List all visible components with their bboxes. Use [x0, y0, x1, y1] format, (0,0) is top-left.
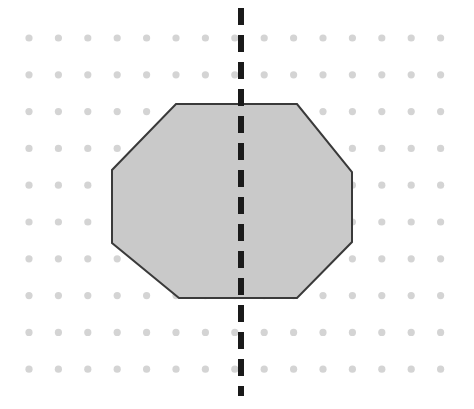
grid-dot — [349, 108, 356, 115]
grid-dot — [437, 255, 444, 262]
grid-dot — [261, 34, 268, 41]
grid-dot — [437, 71, 444, 78]
grid-dot — [437, 329, 444, 336]
grid-dot — [437, 366, 444, 373]
grid-dot — [114, 255, 121, 262]
grid-dot — [84, 255, 91, 262]
grid-dot — [290, 366, 297, 373]
grid-dot — [349, 366, 356, 373]
grid-dot — [25, 329, 32, 336]
grid-dot — [437, 292, 444, 299]
grid-dot — [378, 366, 385, 373]
grid-dot — [114, 366, 121, 373]
grid-dot — [349, 71, 356, 78]
grid-dot — [84, 218, 91, 225]
grid-dot — [437, 218, 444, 225]
grid-dot — [408, 292, 415, 299]
grid-dot — [231, 71, 238, 78]
grid-dot — [172, 71, 179, 78]
grid-dot — [408, 71, 415, 78]
grid-dot — [261, 366, 268, 373]
grid-dot — [25, 255, 32, 262]
grid-dot — [55, 71, 62, 78]
grid-dot — [319, 108, 326, 115]
grid-dot — [378, 145, 385, 152]
grid-dot — [55, 182, 62, 189]
grid-dot — [143, 108, 150, 115]
grid-dot — [349, 255, 356, 262]
grid-dot — [55, 292, 62, 299]
grid-dot — [202, 34, 209, 41]
grid-dot — [290, 329, 297, 336]
grid-dot — [378, 292, 385, 299]
grid-dot — [143, 329, 150, 336]
figure-canvas — [0, 0, 474, 409]
grid-dot — [319, 292, 326, 299]
grid-dot — [84, 34, 91, 41]
grid-dot — [378, 329, 385, 336]
grid-dot — [378, 218, 385, 225]
grid-dot — [84, 145, 91, 152]
grid-dot — [143, 292, 150, 299]
grid-dot — [84, 366, 91, 373]
grid-dot — [25, 218, 32, 225]
grid-dot — [84, 108, 91, 115]
grid-dot — [114, 34, 121, 41]
grid-dot — [84, 329, 91, 336]
grid-dot — [408, 255, 415, 262]
grid-dot — [408, 218, 415, 225]
grid-dot — [408, 145, 415, 152]
grid-dot — [437, 34, 444, 41]
grid-dot — [55, 329, 62, 336]
grid-dot — [84, 71, 91, 78]
grid-dot — [172, 366, 179, 373]
grid-dot — [202, 71, 209, 78]
grid-dot — [143, 71, 150, 78]
grid-dot — [25, 108, 32, 115]
grid-dot — [408, 366, 415, 373]
grid-dot — [25, 182, 32, 189]
grid-dot — [437, 108, 444, 115]
grid-dot — [290, 71, 297, 78]
grid-dot — [172, 329, 179, 336]
grid-dot — [114, 292, 121, 299]
grid-dot — [349, 145, 356, 152]
grid-dot — [114, 71, 121, 78]
grid-dot — [25, 71, 32, 78]
grid-dot — [202, 366, 209, 373]
grid-dot — [408, 108, 415, 115]
grid-dot — [408, 329, 415, 336]
grid-dot — [349, 329, 356, 336]
grid-dot — [319, 34, 326, 41]
grid-dot — [437, 182, 444, 189]
grid-dot — [25, 292, 32, 299]
grid-dot — [202, 329, 209, 336]
grid-dot — [55, 218, 62, 225]
grid-dot — [25, 145, 32, 152]
grid-dot — [349, 292, 356, 299]
grid-dot — [55, 108, 62, 115]
grid-dot — [143, 34, 150, 41]
grid-dot — [378, 71, 385, 78]
grid-dot — [231, 329, 238, 336]
grid-dot — [319, 71, 326, 78]
grid-dot — [25, 366, 32, 373]
grid-dot — [378, 182, 385, 189]
grid-dot — [349, 34, 356, 41]
grid-dot — [143, 366, 150, 373]
grid-dot — [231, 366, 238, 373]
grid-dot — [231, 34, 238, 41]
grid-dot — [84, 292, 91, 299]
grid-dot — [55, 34, 62, 41]
grid-dot — [261, 329, 268, 336]
grid-dot — [290, 34, 297, 41]
grid-dot — [55, 366, 62, 373]
grid-dot — [84, 182, 91, 189]
octagon-shape — [112, 104, 352, 298]
grid-dot — [319, 329, 326, 336]
grid-dot — [319, 366, 326, 373]
grid-dot — [114, 145, 121, 152]
grid-dot — [378, 255, 385, 262]
grid-dot — [408, 182, 415, 189]
grid-dot — [25, 34, 32, 41]
